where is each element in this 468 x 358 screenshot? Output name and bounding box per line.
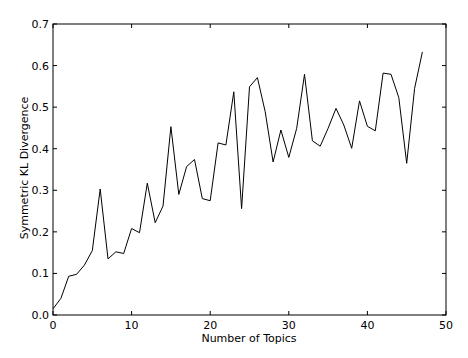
x-tick-label: 10 <box>125 319 139 332</box>
y-tick-label: 0.4 <box>32 143 50 156</box>
y-tick-label: 0.5 <box>32 101 50 114</box>
y-tick-label: 0.7 <box>32 18 50 31</box>
y-tick-label: 0.2 <box>32 226 50 239</box>
y-tick-label: 0.6 <box>32 60 50 73</box>
x-tick-label: 20 <box>203 319 217 332</box>
plot-frame <box>53 24 446 315</box>
y-tick-label: 0.3 <box>32 184 50 197</box>
x-axis-label: Number of Topics <box>201 332 296 345</box>
series-line <box>53 52 422 309</box>
line-chart: 01020304050 0.00.10.20.30.40.50.60.7 Num… <box>0 0 468 358</box>
x-axis-ticks: 01020304050 <box>50 24 454 332</box>
x-tick-label: 0 <box>50 319 57 332</box>
y-tick-label: 0.1 <box>32 267 50 280</box>
y-tick-label: 0.0 <box>32 309 50 322</box>
data-line <box>53 52 422 309</box>
x-tick-label: 50 <box>439 319 453 332</box>
x-tick-label: 40 <box>360 319 374 332</box>
y-axis-label: Symmetric KL Divergence <box>18 96 31 239</box>
x-tick-label: 30 <box>282 319 296 332</box>
